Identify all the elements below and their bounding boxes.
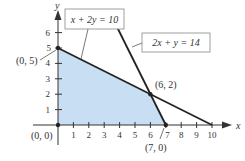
- svg-text:8: 8: [179, 130, 184, 140]
- svg-text:3: 3: [46, 74, 51, 84]
- vertex-0-5: [56, 46, 60, 50]
- svg-text:1: 1: [71, 130, 76, 140]
- p00-label: (0, 0): [31, 130, 53, 142]
- x-tick-labels: 1 2 3 4 5 6 7 8 9 10: [71, 130, 217, 140]
- svg-text:2: 2: [46, 89, 51, 99]
- svg-text:9: 9: [194, 130, 199, 140]
- y-axis-arrow-icon: [55, 10, 62, 20]
- svg-text:6: 6: [148, 130, 153, 140]
- vertex-7-0: [164, 123, 168, 127]
- eq1-label: x + 2y = 10: [70, 14, 118, 25]
- vertex-0-0: [56, 123, 60, 127]
- p05-label: (0, 5): [16, 55, 38, 67]
- x-axis-arrow-icon: [222, 122, 232, 129]
- eq1-leader: [81, 29, 88, 59]
- svg-text:4: 4: [117, 130, 122, 140]
- p62-label: (6, 2): [155, 79, 177, 91]
- svg-text:6: 6: [46, 28, 51, 38]
- svg-text:7: 7: [165, 130, 170, 140]
- svg-text:5: 5: [47, 43, 52, 53]
- svg-text:3: 3: [102, 130, 107, 140]
- y-tick-labels: 1 2 3 4 5 6: [46, 28, 52, 115]
- eq2-label: 2x + y = 14: [152, 37, 199, 48]
- p70-leader: [160, 128, 164, 139]
- y-axis-label: y: [54, 0, 60, 11]
- svg-text:10: 10: [208, 130, 218, 140]
- svg-text:2: 2: [87, 130, 92, 140]
- svg-text:5: 5: [133, 130, 138, 140]
- feasible-region: [58, 48, 166, 125]
- vertex-6-2: [148, 92, 152, 96]
- p70-label: (7, 0): [145, 142, 167, 154]
- chart: x y 1 2 3 4 5 6 7 8 9 10 1 2: [0, 0, 245, 161]
- eq2-leader: [132, 43, 142, 47]
- x-axis-label: x: [235, 120, 241, 131]
- svg-text:4: 4: [46, 58, 51, 68]
- svg-text:1: 1: [46, 105, 51, 115]
